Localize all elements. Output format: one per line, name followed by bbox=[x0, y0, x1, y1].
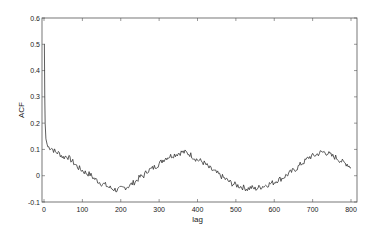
plot-frame bbox=[42, 18, 357, 202]
x-tick-label: 0 bbox=[42, 206, 46, 213]
y-tick-label: 0.5 bbox=[30, 41, 40, 48]
x-tick-label: 800 bbox=[345, 206, 357, 213]
y-tick-label: 0.1 bbox=[30, 146, 40, 153]
y-axis-label: ACF bbox=[17, 102, 26, 118]
x-axis-label: lag bbox=[192, 215, 203, 224]
y-tick-label: 0 bbox=[36, 172, 40, 179]
y-tick-label: 0.6 bbox=[30, 15, 40, 22]
x-tick-label: 400 bbox=[192, 206, 204, 213]
x-tick-label: 200 bbox=[115, 206, 127, 213]
y-tick-label: 0.4 bbox=[30, 67, 40, 74]
x-tick-label: 300 bbox=[153, 206, 165, 213]
acf-series-line bbox=[44, 44, 351, 192]
y-tick-label: -0.1 bbox=[28, 199, 40, 206]
x-tick-label: 700 bbox=[307, 206, 319, 213]
x-axis-ticks: 0100200300400500600700800 bbox=[42, 18, 357, 213]
plot-border bbox=[42, 18, 357, 202]
x-tick-label: 500 bbox=[230, 206, 242, 213]
y-axis-ticks: -0.100.10.20.30.40.50.6 bbox=[28, 15, 357, 206]
x-tick-label: 600 bbox=[268, 206, 280, 213]
y-tick-label: 0.3 bbox=[30, 93, 40, 100]
y-tick-label: 0.2 bbox=[30, 120, 40, 127]
x-tick-label: 100 bbox=[77, 206, 89, 213]
acf-chart: 0100200300400500600700800 -0.100.10.20.3… bbox=[0, 0, 376, 236]
